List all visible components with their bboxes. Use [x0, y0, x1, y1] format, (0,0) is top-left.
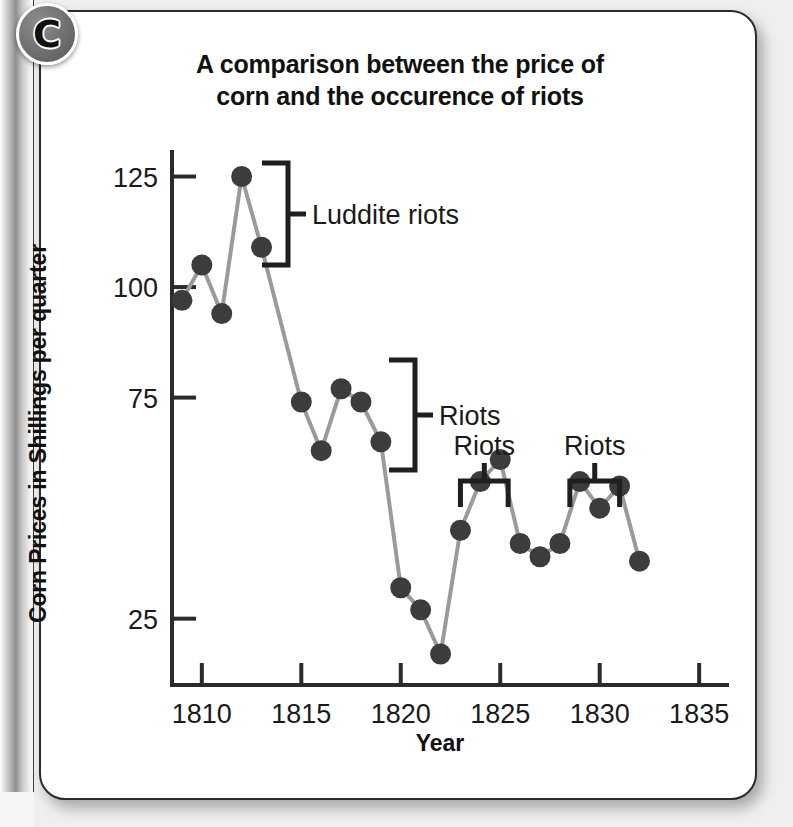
data-point-1818 [350, 392, 371, 413]
x-tick-label-1835: 1835 [669, 699, 729, 729]
data-point-1810 [191, 254, 212, 275]
data-point-1832 [629, 551, 650, 572]
corn-price-polyline [182, 177, 640, 655]
data-point-1823 [450, 520, 471, 541]
vertical-bracket [389, 360, 415, 470]
x-tick-label-1830: 1830 [570, 699, 630, 729]
y-tick-labels: 2575100125 [113, 163, 158, 635]
annotation-bracket-0: Luddite riots [262, 163, 459, 265]
x-tick-label-1820: 1820 [371, 699, 431, 729]
data-point-1827 [530, 546, 551, 567]
data-point-1813 [251, 237, 272, 258]
data-point-1822 [430, 644, 451, 665]
corn-price-markers [171, 166, 650, 665]
corn-price-line [182, 177, 640, 655]
data-point-1816 [311, 440, 332, 461]
data-point-1815 [291, 392, 312, 413]
annotation-label: Riots [564, 431, 626, 461]
data-point-1819 [370, 431, 391, 452]
annotation-label: Riots [439, 401, 501, 431]
section-badge: C [16, 3, 78, 65]
data-point-1817 [331, 378, 352, 399]
y-tick-label-25: 25 [128, 605, 158, 635]
data-point-1811 [211, 303, 232, 324]
x-tick-label-1825: 1825 [470, 699, 530, 729]
annotation-bracket-2: Riots [454, 431, 516, 507]
data-point-1826 [510, 533, 531, 554]
x-tick-label-1810: 1810 [172, 699, 232, 729]
line-chart-plot: 2575100125 181018151820182518301835 Ludd… [0, 0, 793, 827]
data-point-1820 [390, 577, 411, 598]
x-tick-labels: 181018151820182518301835 [172, 699, 729, 729]
data-point-1812 [231, 166, 252, 187]
y-tick-label-75: 75 [128, 384, 158, 414]
annotation-label: Riots [454, 431, 516, 461]
x-tick-label-1815: 1815 [271, 699, 331, 729]
annotation-label: Luddite riots [312, 200, 459, 230]
data-point-1830 [589, 498, 610, 519]
data-point-1828 [549, 533, 570, 554]
data-point-1821 [410, 599, 431, 620]
y-tick-label-100: 100 [113, 273, 158, 303]
section-badge-letter: C [33, 15, 61, 53]
y-tick-label-125: 125 [113, 163, 158, 193]
data-point-1809 [171, 290, 192, 311]
